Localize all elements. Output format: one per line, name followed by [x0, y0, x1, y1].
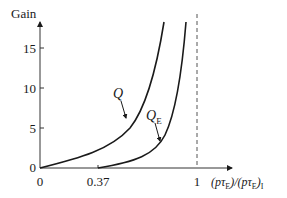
- y-tick-label-15: 15: [23, 41, 36, 56]
- curve-qe-label: QE: [146, 108, 162, 126]
- y-axis-title: Gain: [11, 6, 37, 21]
- x-tick-label-1: 1: [194, 174, 201, 189]
- y-tick-label-5: 5: [30, 121, 37, 136]
- x-tick-label-037: 0.37: [87, 174, 110, 189]
- x-tick-label-0: 0: [37, 174, 44, 189]
- y-ticks: [40, 48, 44, 128]
- curve-q: [40, 22, 164, 168]
- curve-q-label: Q: [113, 86, 123, 101]
- x-axis-title: (pτE)/(pτE)I: [211, 175, 264, 191]
- gain-chart: Gain 15 10 5 0 0 0.37 1 (pτE)/(pτE)I Q Q…: [0, 0, 287, 198]
- q-pointer-arrow: [121, 101, 126, 118]
- y-tick-label-0: 0: [30, 160, 37, 175]
- y-tick-label-10: 10: [23, 81, 36, 96]
- curve-qe: [98, 22, 186, 168]
